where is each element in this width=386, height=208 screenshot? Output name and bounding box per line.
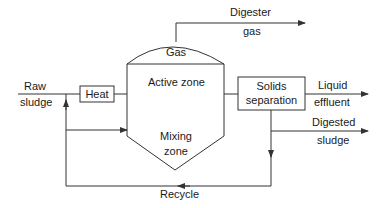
digester-gas-line bbox=[176, 23, 305, 42]
digester-gas-label-1: Digester bbox=[230, 6, 271, 19]
mixing-label-2: zone bbox=[155, 145, 197, 158]
mixing-label-1: Mixing bbox=[155, 130, 197, 143]
gas-label: Gas bbox=[155, 46, 197, 59]
raw-sludge-label-1: Raw bbox=[24, 80, 46, 93]
liquid-label-1: Liquid bbox=[318, 79, 347, 92]
digested-label-1: Digested bbox=[312, 116, 355, 129]
digester-gas-label-2: gas bbox=[243, 25, 261, 38]
heat-label: Heat bbox=[80, 88, 114, 101]
solids-label-2: separation bbox=[238, 94, 305, 107]
liquid-label-2: effluent bbox=[314, 96, 350, 109]
recycle-label: Recycle bbox=[160, 188, 199, 201]
raw-sludge-label-2: sludge bbox=[20, 96, 52, 109]
active-zone-label: Active zone bbox=[148, 76, 205, 89]
digested-label-2: sludge bbox=[317, 134, 349, 147]
solids-label-1: Solids bbox=[238, 80, 305, 93]
